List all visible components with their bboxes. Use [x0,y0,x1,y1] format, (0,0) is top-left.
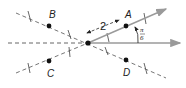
angle-numerator: π [140,26,144,34]
point-c [47,59,52,64]
angle-arc [135,27,138,43]
point-a [124,24,129,29]
angle-denominator: 6 [140,34,144,42]
label-a: A [124,9,132,20]
pole-point [85,40,90,45]
label-c: C [47,68,55,79]
point-d [124,58,129,63]
dashed-line-bd [16,13,166,78]
label-b: B [49,9,56,20]
polar-diagram: 2 π 6 A B C D [0,0,186,88]
point-b [47,24,52,29]
label-d: D [123,67,130,78]
distance-label: 2 [100,20,106,32]
